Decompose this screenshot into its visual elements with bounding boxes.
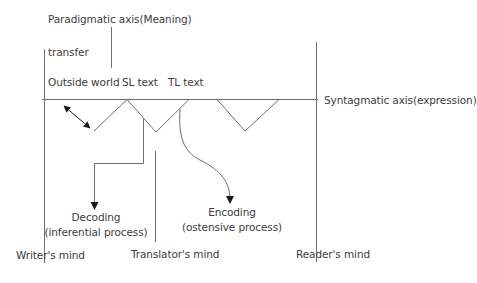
translators-mind-label: Translator's mind (131, 248, 219, 260)
sl-text-label: SL text (122, 76, 158, 88)
writers-mind-label: Writer's mind (16, 249, 85, 261)
decoding-connector (95, 119, 144, 205)
paradigmatic-axis-label: Paradigmatic axis(Meaning) (48, 13, 192, 25)
tl-text-label: TL text (168, 76, 204, 88)
zigzag-sl-tl (94, 100, 189, 133)
decoding-sub-label: (inferential process) (44, 226, 147, 238)
encoding-curve (180, 109, 230, 198)
zigzag-reader (217, 100, 279, 132)
syntagmatic-axis-label: Syntagmatic axis(expression) (324, 94, 477, 106)
transfer-label: transfer (48, 46, 89, 58)
decoding-arrowhead-icon (91, 202, 99, 210)
outside-world-label: Outside world (48, 76, 120, 88)
transfer-double-arrow (64, 106, 90, 128)
encoding-sub-label: (ostensive process) (182, 221, 282, 233)
readers-mind-label: Reader's mind (296, 248, 370, 260)
encoding-label: Encoding (208, 206, 256, 218)
decoding-label: Decoding (72, 211, 121, 223)
encoding-arrowhead-icon (226, 196, 234, 204)
